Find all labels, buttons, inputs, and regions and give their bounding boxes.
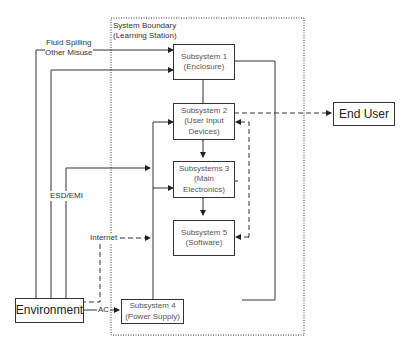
subsystem-2-box: Subsystem 2 (User Input Devices): [173, 103, 235, 140]
subsystem-5-box: Subsystem 5 (Software): [173, 220, 235, 256]
environment-box: Environment: [15, 298, 84, 323]
boundary-title: System Boundary (Learning Station): [113, 21, 177, 41]
subsystem-4-box: Subsystem 4 (Power Supply): [121, 299, 184, 324]
subsystem-1-box: Subsystem 1 (Enclosure): [173, 44, 235, 80]
subsystem-3-box: Subsystems 3 (Main Electronics): [173, 161, 235, 198]
end-user-box: End User: [333, 102, 395, 126]
label-internet: Internet: [90, 233, 117, 243]
label-ac: AC: [98, 305, 109, 315]
label-fluid: Fluid Spilling: [46, 38, 91, 48]
label-misuse: Other Misuse: [45, 48, 93, 58]
label-esd: ESD/EMI: [50, 191, 83, 201]
